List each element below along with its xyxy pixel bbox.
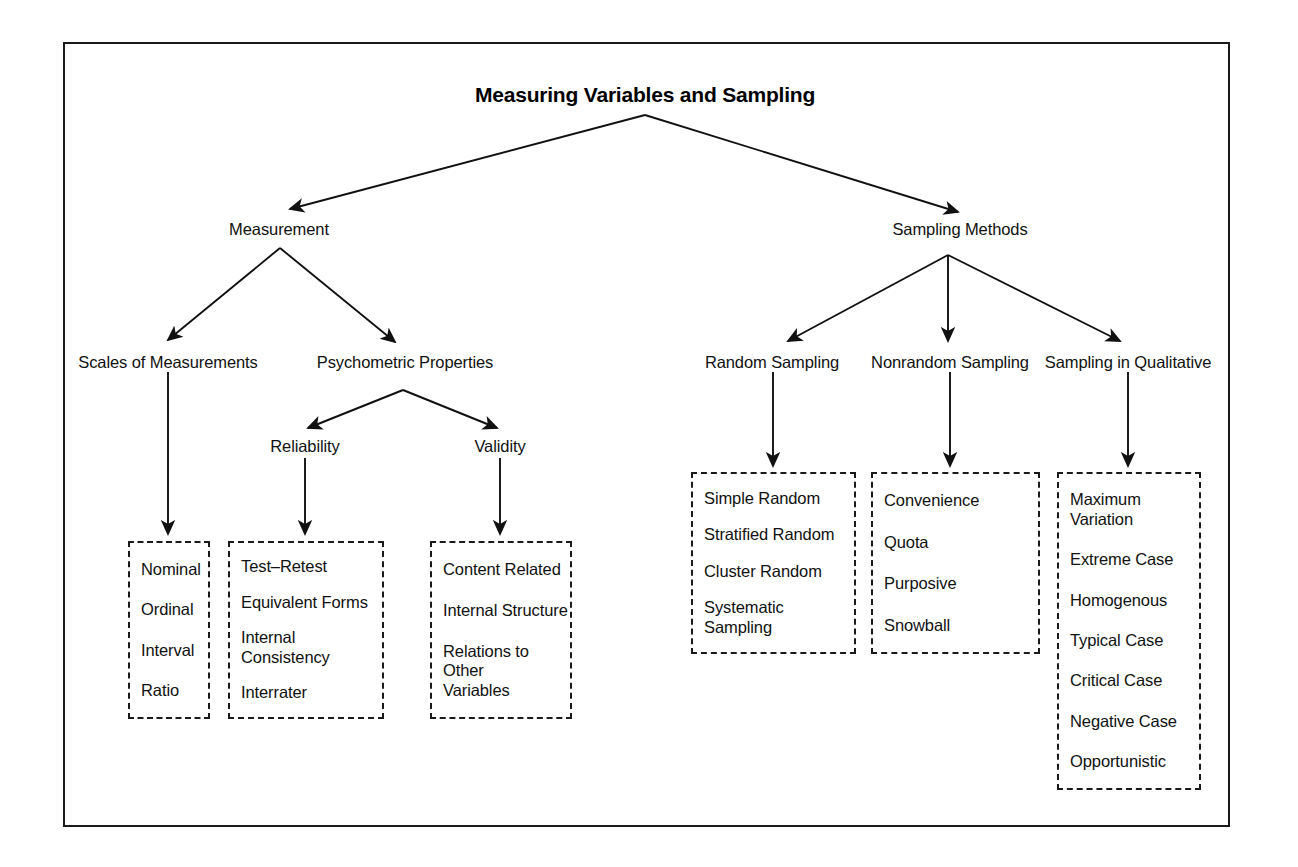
box-item: Opportunistic (1070, 752, 1199, 771)
diagram-title: Measuring Variables and Sampling (475, 83, 815, 107)
box-item: Convenience (884, 491, 1038, 510)
box-scales-items: NominalOrdinalIntervalRatio (130, 543, 208, 717)
box-validity-items: Content RelatedInternal StructureRelatio… (432, 543, 570, 717)
node-nonrandom-sampling: Nonrandom Sampling (871, 353, 1029, 372)
diagram-page: Measuring Variables and Sampling Measure… (0, 0, 1298, 867)
box-item: Quota (884, 533, 1038, 552)
node-random-sampling: Random Sampling (705, 353, 839, 372)
box-item: Homogenous (1070, 591, 1199, 610)
node-psychometric-properties: Psychometric Properties (317, 353, 494, 372)
box-item: Typical Case (1070, 631, 1199, 650)
box-item: Extreme Case (1070, 550, 1199, 569)
box-item: Interrater (241, 683, 382, 702)
box-random-sampling: Simple RandomStratified RandomCluster Ra… (691, 472, 856, 654)
box-reliability: Test–RetestEquivalent FormsInternal Cons… (228, 541, 384, 719)
node-measurement: Measurement (229, 220, 329, 239)
node-validity: Validity (474, 437, 525, 456)
box-nonrandom-items: ConvenienceQuotaPurposiveSnowball (873, 474, 1038, 652)
box-item: Relations to Other Variables (443, 642, 570, 700)
node-sampling-in-qualitative: Sampling in Qualitative (1045, 353, 1211, 372)
box-item: Critical Case (1070, 671, 1199, 690)
box-qualitative-items: Maximum VariationExtreme CaseHomogenousT… (1059, 474, 1199, 788)
box-item: Systematic Sampling (704, 598, 854, 637)
box-sampling-in-qualitative: Maximum VariationExtreme CaseHomogenousT… (1057, 472, 1201, 790)
box-item: Internal Structure (443, 601, 570, 620)
box-item: Content Related (443, 560, 570, 579)
box-item: Snowball (884, 616, 1038, 635)
box-item: Purposive (884, 574, 1038, 593)
box-item: Ratio (141, 681, 208, 700)
box-item: Cluster Random (704, 562, 854, 581)
node-scales-of-measurements: Scales of Measurements (78, 353, 257, 372)
box-random-items: Simple RandomStratified RandomCluster Ra… (693, 474, 854, 652)
box-item: Simple Random (704, 489, 854, 508)
box-item: Stratified Random (704, 525, 854, 544)
node-reliability: Reliability (270, 437, 340, 456)
box-reliability-items: Test–RetestEquivalent FormsInternal Cons… (230, 543, 382, 717)
box-scales-of-measurements: NominalOrdinalIntervalRatio (128, 541, 210, 719)
box-item: Nominal (141, 560, 208, 579)
node-sampling-methods: Sampling Methods (892, 220, 1027, 239)
box-item: Negative Case (1070, 712, 1199, 731)
box-nonrandom-sampling: ConvenienceQuotaPurposiveSnowball (871, 472, 1040, 654)
box-validity: Content RelatedInternal StructureRelatio… (430, 541, 572, 719)
box-item: Test–Retest (241, 557, 382, 576)
box-item: Internal Consistency (241, 628, 382, 667)
box-item: Ordinal (141, 600, 208, 619)
box-item: Interval (141, 641, 208, 660)
box-item: Maximum Variation (1070, 490, 1199, 529)
box-item: Equivalent Forms (241, 593, 382, 612)
